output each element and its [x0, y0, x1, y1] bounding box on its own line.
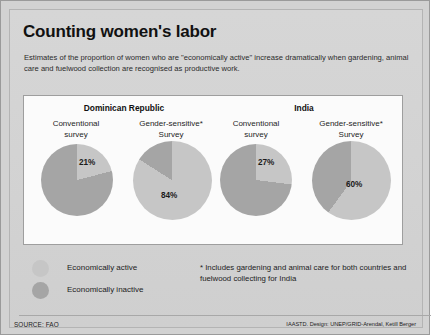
country-title-india: India [216, 103, 392, 113]
legend-swatch-inactive [32, 282, 49, 299]
legend-label-active: Economically active [67, 263, 137, 272]
pie-chart-dr-gender-sensitive [133, 141, 212, 220]
survey-label-line1: Conventional [53, 119, 100, 128]
survey-label-line2: survey [244, 130, 268, 139]
survey-label-line1: Conventional [233, 119, 280, 128]
pie-chart-dr-conventional [41, 144, 113, 216]
footer-divider [19, 315, 431, 316]
survey-label-line2: survey [64, 130, 88, 139]
pie-value-dr-gender-sensitive: 84% [161, 191, 177, 200]
survey-label-line2: Survey [159, 130, 184, 139]
survey-label-dr-gender-sensitive: Gender-sensitive* Survey [124, 119, 218, 140]
footnote: * Includes gardening and animal care for… [200, 262, 412, 284]
pie-chart-india-conventional [220, 144, 292, 216]
survey-label-dr-conventional: Conventional survey [30, 119, 122, 140]
chart-panel: Dominican Republic India Conventional su… [23, 95, 403, 245]
survey-label-line1: Gender-sensitive* [139, 119, 203, 128]
survey-label-line1: Gender-sensitive* [319, 119, 383, 128]
poster-frame: Counting women's labor Estimates of the … [9, 9, 423, 328]
survey-label-india-gender-sensitive: Gender-sensitive* Survey [304, 119, 398, 140]
legend-label-inactive: Economically inactive [67, 285, 143, 294]
pie-value-india-gender-sensitive: 60% [346, 180, 362, 189]
page-title: Counting women's labor [23, 22, 216, 42]
pie-value-india-conventional: 27% [258, 158, 274, 167]
survey-label-line2: Survey [339, 130, 364, 139]
poster-subtitle: Estimates of the proportion of women who… [24, 52, 416, 74]
country-title-dominican-republic: Dominican Republic [36, 103, 212, 113]
credit-label: IAASTD. Design: UNEP/GRID-Arendal, Ketil… [286, 321, 416, 327]
pie-value-dr-conventional: 21% [79, 158, 95, 167]
survey-label-india-conventional: Conventional survey [210, 119, 302, 140]
source-label: SOURCE: FAO [14, 321, 59, 328]
legend-swatch-active [32, 260, 49, 277]
